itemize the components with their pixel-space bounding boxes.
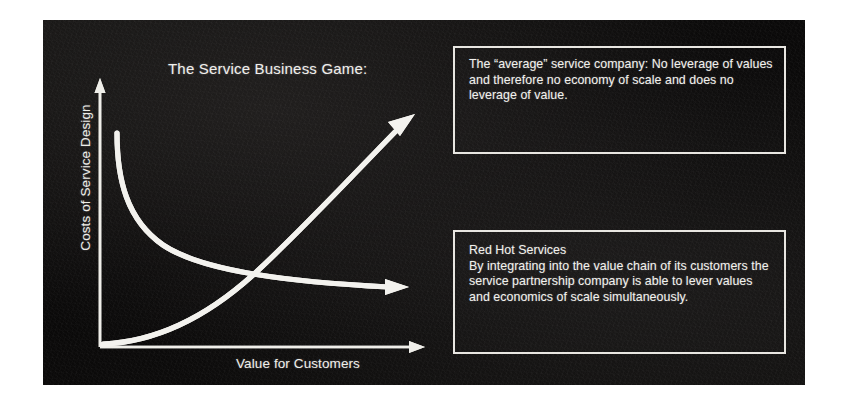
presentation-slide: The Service Business Game: bbox=[43, 20, 805, 385]
y-axis bbox=[95, 78, 106, 347]
callout-box-red-hot-services: Red Hot Services By integrating into the… bbox=[453, 230, 786, 354]
slide-root: The Service Business Game: bbox=[0, 0, 846, 403]
x-axis-label: Value for Customers bbox=[163, 356, 433, 371]
callout-text-average-company: The “average” service company: No levera… bbox=[469, 57, 774, 104]
x-axis bbox=[100, 341, 425, 353]
callout-text-red-hot-services: Red Hot Services By integrating into the… bbox=[469, 243, 774, 305]
y-axis-label: Costs of Service Design bbox=[78, 93, 93, 263]
service-business-chart: Costs of Service Design Value for Custom… bbox=[43, 20, 483, 385]
chart-canvas bbox=[43, 20, 483, 385]
declining-cost-curve bbox=[117, 133, 409, 295]
rising-value-curve bbox=[103, 114, 415, 344]
callout-box-average-company: The “average” service company: No levera… bbox=[453, 46, 786, 154]
